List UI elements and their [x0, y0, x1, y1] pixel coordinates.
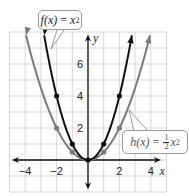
h-frac-den: 2	[164, 143, 168, 151]
f-func-label: f(x)	[41, 13, 58, 28]
h-data-point	[117, 125, 122, 130]
h-equals: =	[153, 135, 160, 150]
y-axis-label: y	[92, 31, 99, 45]
callout-pointers	[51, 27, 148, 131]
x-tick-label: −4	[19, 165, 32, 177]
h-data-point	[101, 149, 106, 154]
x-tick-label: −2	[50, 165, 63, 177]
f-equals: =	[60, 13, 67, 28]
x-tick-label: 4	[148, 165, 154, 177]
f-data-point	[70, 141, 75, 146]
parabola-graph: −4−224246xy	[0, 0, 189, 196]
h-curve-arrow-icon	[25, 27, 31, 36]
f-callout: f(x) = x2	[38, 10, 82, 30]
f-data-point	[117, 93, 122, 98]
y-tick-label: 4	[77, 90, 83, 102]
f-callout-pointer	[51, 27, 66, 49]
x-axis-label: x	[158, 164, 165, 178]
f-data-point	[101, 141, 106, 146]
f-curve-arrow-icon	[127, 35, 133, 43]
f-data-point	[85, 157, 90, 162]
h-data-point	[70, 149, 75, 154]
y-tick-label: 6	[77, 58, 83, 70]
x-tick-label: 2	[116, 165, 122, 177]
h-fraction: 1 2	[163, 134, 169, 151]
h-exp: 2	[176, 138, 180, 147]
h-callout: h(x) = 1 2 x2	[122, 130, 188, 154]
h-func-label: h(x)	[130, 135, 149, 150]
h-data-point	[54, 125, 59, 130]
y-tick-label: 2	[77, 122, 83, 134]
f-data-point	[54, 93, 59, 98]
f-exp: 2	[75, 16, 79, 25]
